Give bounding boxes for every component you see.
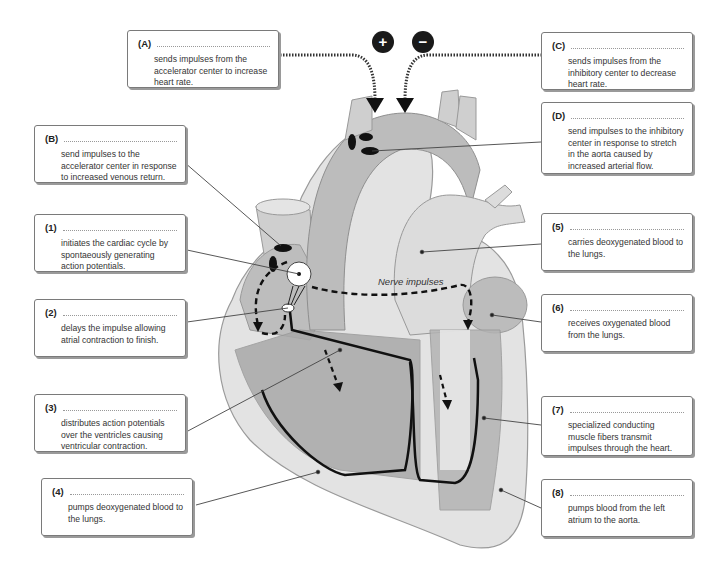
label-box-2: (2) delays the impulse allowing atrial c… — [34, 299, 186, 357]
label-box-4: (4) pumps deoxygenated blood to the lung… — [41, 478, 193, 536]
label-description: sends impulses from the inhibitory cente… — [568, 56, 684, 91]
label-box-7: (7) specialized conducting muscle fibers… — [541, 396, 693, 456]
receptor-aortic — [359, 133, 373, 141]
label-description: receives oxygenated blood from the lungs… — [568, 318, 684, 341]
svg-text:−: − — [419, 33, 428, 50]
answer-blank[interactable] — [571, 40, 684, 49]
label-key: (6) — [552, 302, 564, 313]
label-key: (2) — [45, 307, 57, 318]
label-key: (7) — [552, 404, 564, 415]
heart-conduction-diagram: + − Nerve impulses (A) sends impulses fr… — [0, 0, 726, 586]
label-box-3: (3) distributes action potentials over t… — [34, 394, 186, 452]
nerve-impulses-label: Nerve impulses — [378, 276, 443, 287]
label-box-8: (8) pumps blood from the left atrium to … — [541, 479, 693, 537]
label-description: send impulses to the inhibitory center i… — [568, 126, 684, 172]
label-description: specialized conducting muscle fibers tra… — [568, 420, 684, 455]
label-key: (B) — [45, 133, 58, 144]
right-ventricle — [235, 330, 420, 480]
label-box-c: (C) sends impulses from the inhibitory c… — [541, 32, 693, 90]
label-key: (3) — [45, 402, 57, 413]
label-description: send impulses to the accelerator center … — [61, 149, 177, 184]
answer-blank[interactable] — [570, 404, 684, 413]
left-atrium — [463, 277, 527, 333]
answer-blank[interactable] — [157, 38, 270, 47]
label-key: (4) — [52, 486, 64, 497]
answer-blank[interactable] — [63, 402, 177, 411]
label-box-5: (5) carries deoxygenated blood to the lu… — [541, 213, 693, 271]
answer-blank[interactable] — [70, 486, 184, 495]
answer-blank[interactable] — [63, 222, 177, 231]
label-description: pumps blood from the left atrium to the … — [568, 503, 684, 526]
label-description: initiates the cardiac cycle by spontaeou… — [61, 238, 177, 273]
label-box-d: (D) send impulses to the inhibitory cent… — [541, 102, 693, 174]
label-key: (1) — [45, 222, 57, 233]
label-key: (D) — [552, 110, 565, 121]
answer-blank[interactable] — [63, 307, 177, 316]
label-box-1: (1) initiates the cardiac cycle by spont… — [34, 214, 186, 272]
inhibitory-pathway — [405, 55, 545, 100]
svg-text:+: + — [379, 33, 388, 50]
label-key: (5) — [552, 221, 564, 232]
label-key: (8) — [552, 487, 564, 498]
label-box-a: (A) sends impulses from the accelerator … — [127, 30, 279, 88]
label-key: (C) — [552, 40, 565, 51]
receptor-venous — [274, 244, 292, 252]
label-key: (A) — [138, 38, 151, 49]
answer-blank[interactable] — [570, 302, 684, 311]
label-box-6: (6) receives oxygenated blood from the l… — [541, 294, 693, 352]
receptor-aortic — [348, 134, 356, 150]
label-box-b: (B) send impulses to the accelerator cen… — [34, 125, 186, 183]
answer-blank[interactable] — [570, 487, 684, 496]
label-description: sends impulses from the accelerator cent… — [154, 54, 270, 89]
label-description: distributes action potentials over the v… — [61, 418, 177, 453]
label-description: delays the impulse allowing atrial contr… — [61, 323, 177, 346]
label-description: pumps deoxygenated blood to the lungs. — [68, 502, 184, 525]
answer-blank[interactable] — [570, 221, 684, 230]
answer-blank[interactable] — [571, 110, 684, 119]
label-description: carries deoxygenated blood to the lungs. — [568, 237, 684, 260]
answer-blank[interactable] — [64, 133, 177, 142]
